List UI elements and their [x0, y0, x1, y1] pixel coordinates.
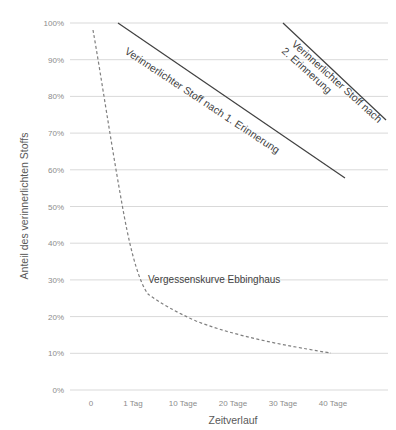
x-tick-label: 10 Tage: [169, 399, 198, 408]
y-tick-label: 100%: [44, 19, 64, 28]
y-tick-label: 70%: [48, 129, 64, 138]
chart-canvas: 100% 90% 80% 70% 60% 50% 40% 30% 20% 10%…: [0, 0, 396, 430]
y-tick-label: 90%: [48, 56, 64, 65]
y-tick-label: 80%: [48, 92, 64, 101]
x-tick-label: 0: [89, 399, 94, 408]
y-tick-label: 0%: [52, 386, 64, 395]
ebbinghaus-forgetting-curve-chart: 100% 90% 80% 70% 60% 50% 40% 30% 20% 10%…: [0, 0, 396, 430]
y-tick-label: 10%: [48, 349, 64, 358]
y-tick-label: 40%: [48, 239, 64, 248]
x-tick-label: 40 Tage: [319, 399, 348, 408]
y-tick-label: 20%: [48, 313, 64, 322]
x-tick-label: 20 Tage: [219, 399, 248, 408]
y-tick-label: 60%: [48, 166, 64, 175]
y-axis-title: Anteil des verinnerlichten Stoffs: [18, 133, 30, 280]
y-tick-label: 50%: [48, 203, 64, 212]
x-tick-label: 30 Tage: [269, 399, 298, 408]
x-axis-tick-labels: 0 1 Tag 10 Tage 20 Tage 30 Tage 40 Tage: [89, 399, 348, 408]
y-axis-tick-labels: 100% 90% 80% 70% 60% 50% 40% 30% 20% 10%…: [44, 19, 64, 395]
annotation-ebbinghaus-label: Vergessenskurve Ebbinghaus: [148, 274, 280, 285]
x-axis-title: Zeitverlauf: [208, 414, 257, 426]
x-tick-label: 1 Tag: [123, 399, 142, 408]
y-tick-label: 30%: [48, 276, 64, 285]
